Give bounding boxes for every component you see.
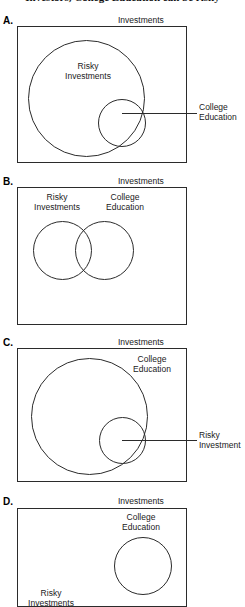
panel-c-college-education-label-line1: College (138, 354, 167, 364)
panel-d-college-education-label-line2: Education (122, 522, 160, 532)
panel-d-risky-investments-label-line2: Investments (28, 598, 74, 607)
panel-c-universe-label: Investments (118, 337, 164, 347)
panel-a-risky-investments-label-line2: Investments (65, 71, 111, 81)
panel-a-letter: A. (3, 16, 13, 26)
panel-a-risky-investments-label-line1: Risky (78, 61, 99, 71)
panel-b-universe-label: Investments (118, 176, 164, 186)
panel-d-college-education-label: College Education (111, 512, 171, 532)
panel-a-college-education-label-line1: College (199, 102, 228, 112)
panel-b-college-education-label-line1: College (111, 192, 140, 202)
panel-d-college-education-label-line1: College (127, 512, 156, 522)
panel-c-risky-investment-label: Risky Investment (199, 430, 241, 450)
panel-c-college-education-label-line2: Education (133, 364, 171, 374)
panel-b-college-education-label-line2: Education (106, 202, 144, 212)
panel-b-college-education-circle (75, 221, 134, 280)
panel-b-risky-investments-label-line2: Investments (34, 202, 80, 212)
panel-b-risky-investments-label: Risky Investments (27, 192, 87, 212)
panel-b-letter: B. (3, 177, 13, 187)
panel-b-college-education-label: College Education (95, 192, 155, 212)
panel-c-letter: C. (3, 338, 13, 348)
panel-d-risky-investments-label-line1: Risky (41, 588, 62, 598)
panel-c-risky-investment-label-line2: Investment (199, 440, 241, 450)
panel-c-risky-investment-label-line1: Risky (199, 430, 220, 440)
panel-b-risky-investments-label-line1: Risky (47, 192, 68, 202)
panel-a-college-education-label: College Education (199, 102, 237, 122)
panel-a-college-education-label-line2: Education (199, 112, 237, 122)
panel-a-universe-label: Investments (118, 15, 164, 25)
figure-caption: Investors, College Education can be risk… (0, 0, 245, 5)
panel-d-universe-label: Investments (118, 496, 164, 506)
panel-d-college-education-circle (114, 537, 172, 595)
panel-a-risky-investments-label: Risky Investments (58, 61, 118, 81)
panel-d-letter: D. (3, 497, 13, 507)
panel-d-risky-investments-label: Risky Investments (20, 588, 82, 607)
panel-a-college-education-circle (98, 99, 146, 147)
panel-c-callout-leader-line (122, 440, 197, 441)
panel-c-college-education-label: College Education (122, 354, 182, 374)
panel-a-callout-leader-line (122, 113, 197, 114)
